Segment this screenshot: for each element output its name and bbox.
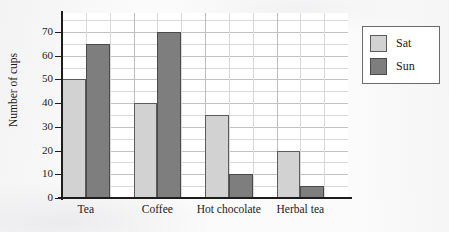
legend-item-sat: Sat (370, 32, 439, 55)
gridline-v (229, 13, 230, 198)
legend-swatch-sat-icon (370, 35, 387, 52)
bar-sun-tea (86, 44, 110, 198)
y-tick-mark (55, 174, 62, 175)
y-tick-mark (55, 151, 62, 152)
y-tick-mark (55, 32, 62, 33)
legend-item-sun: Sun (370, 55, 439, 78)
bar-sun-hot-chocolate (229, 174, 253, 198)
y-axis-line (61, 11, 63, 200)
gridline-v (253, 13, 254, 198)
bar-sat-herbal-tea (277, 151, 301, 198)
gridline-h (62, 20, 348, 21)
bar-chart: Number of cups 010203040506070 TeaCoffee… (0, 0, 449, 232)
bar-sat-hot-chocolate (205, 115, 229, 198)
y-tick-mark (55, 56, 62, 57)
y-tick-label: 40 (27, 97, 53, 108)
y-tick-label: 50 (27, 73, 53, 84)
y-tick-label: 70 (27, 26, 53, 37)
bar-sun-coffee (157, 32, 181, 198)
category-label-herbal-tea: Herbal tea (250, 203, 350, 215)
y-tick-label: 0 (27, 192, 53, 203)
y-tick-label: 30 (27, 121, 53, 132)
legend-label-sun: Sun (396, 59, 415, 74)
y-tick-mark (55, 127, 62, 128)
legend-label-sat: Sat (396, 36, 411, 51)
gridline-v (110, 13, 111, 198)
bar-sat-coffee (134, 103, 158, 198)
legend-swatch-sun-icon (370, 58, 387, 75)
plot-area (62, 13, 348, 198)
bar-sat-tea (62, 79, 86, 198)
y-tick-label: 20 (27, 145, 53, 156)
y-axis-tick-labels: 010203040506070 (25, 0, 53, 232)
gridline-v (181, 13, 182, 198)
y-tick-label: 10 (27, 168, 53, 179)
y-tick-mark (55, 79, 62, 80)
gridline-v (300, 13, 301, 198)
y-tick-mark (55, 198, 62, 199)
y-axis-title: Number of cups (7, 30, 19, 150)
x-axis-line (58, 197, 352, 199)
gridline-h (62, 32, 348, 33)
gridline-v (324, 13, 325, 198)
y-tick-label: 60 (27, 50, 53, 61)
y-tick-mark (55, 103, 62, 104)
chart-legend: Sat Sun (362, 26, 440, 84)
